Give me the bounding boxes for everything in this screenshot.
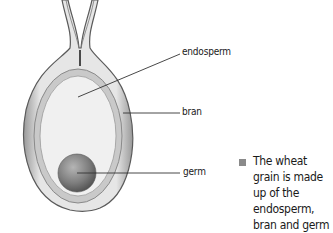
bullet-square-icon <box>239 159 246 166</box>
germ-label: germ <box>183 166 206 177</box>
caption-text: The wheat grain is made up of the endosp… <box>253 153 333 233</box>
endosperm-label: endosperm <box>182 46 231 57</box>
bran-label: bran <box>182 106 202 117</box>
